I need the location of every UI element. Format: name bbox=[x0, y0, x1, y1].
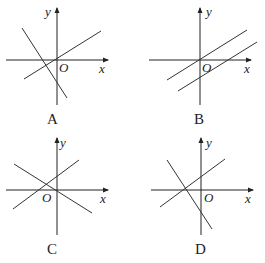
x-axis-label: x bbox=[244, 191, 251, 206]
y-axis-label: y bbox=[204, 4, 212, 19]
diagram-figure: y x O A y x O B y x O C y x O D bbox=[0, 0, 265, 263]
origin-label: O bbox=[59, 60, 69, 75]
line-negative-slope bbox=[14, 164, 92, 213]
panel-caption: D bbox=[195, 241, 206, 257]
x-axis-label: x bbox=[98, 61, 105, 76]
origin-label: O bbox=[202, 60, 212, 75]
x-axis-label: x bbox=[99, 191, 106, 206]
panel-caption: A bbox=[47, 111, 58, 127]
panel-caption: C bbox=[47, 241, 57, 257]
panel-a: y x O A bbox=[6, 4, 108, 127]
panel-caption: B bbox=[194, 111, 204, 127]
panel-b: y x O B bbox=[149, 4, 257, 127]
y-axis-label: y bbox=[204, 135, 212, 150]
origin-label: O bbox=[42, 190, 52, 205]
origin-label: O bbox=[204, 190, 214, 205]
y-axis-label: y bbox=[58, 135, 66, 150]
panel-d: y x O D bbox=[151, 135, 253, 257]
y-axis-label: y bbox=[43, 4, 51, 19]
panel-c: y x O C bbox=[6, 135, 108, 257]
x-axis-label: x bbox=[243, 61, 250, 76]
